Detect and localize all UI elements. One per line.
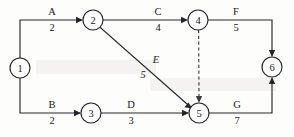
node-1: 1	[10, 58, 30, 78]
edge-label-c-name: C	[154, 6, 161, 17]
node-6-label: 6	[269, 62, 274, 73]
node-6: 6	[262, 57, 282, 77]
node-5: 5	[189, 103, 209, 123]
edge-label-f-value: 5	[233, 22, 238, 33]
edge-label-d-name: D	[127, 99, 135, 110]
edge-a-arrowhead	[76, 17, 83, 23]
edge-c-arrowhead	[181, 17, 188, 23]
edge-d	[101, 110, 189, 116]
edge-b	[20, 78, 81, 116]
edge-e	[101, 28, 193, 109]
edge-label-e-name: E	[152, 54, 160, 65]
edge-c	[103, 17, 188, 23]
edge-e-line	[101, 28, 191, 107]
edge-label-g-value: 7	[234, 115, 239, 126]
node-3-label: 3	[88, 108, 93, 119]
edge-label-a-name: A	[48, 6, 56, 17]
node-2: 2	[83, 10, 103, 30]
network-diagram: A 2 B 2 C 4 D 3 E 5 F 5 G 7	[0, 0, 294, 137]
node-4-label: 4	[195, 15, 201, 26]
edge-dummy	[196, 30, 202, 103]
edge-b-arrowhead	[74, 110, 81, 116]
network-diagram-canvas: A 2 B 2 C 4 D 3 E 5 F 5 G 7	[0, 0, 294, 137]
node-5-label: 5	[196, 108, 201, 119]
edge-f-line	[208, 20, 272, 55]
edge-label-g-name: G	[233, 99, 241, 110]
edge-dummy-arrowhead	[196, 96, 202, 103]
edge-label-e-value: 5	[140, 69, 145, 80]
node-1-label: 1	[17, 63, 22, 74]
node-2-label: 2	[90, 15, 95, 26]
edge-g	[209, 77, 275, 113]
edge-label-b-value: 2	[49, 115, 54, 126]
edge-g-arrowhead	[269, 77, 275, 84]
node-4: 4	[188, 10, 208, 30]
edge-d-arrowhead	[182, 110, 189, 116]
edge-label-e: E 5	[140, 54, 159, 80]
edge-f-arrowhead	[269, 50, 275, 57]
edge-label-c-value: 4	[155, 22, 161, 33]
edge-label-f-name: F	[233, 6, 239, 17]
edge-label-d-value: 3	[128, 115, 133, 126]
edge-f	[208, 20, 275, 57]
edge-label-a-value: 2	[49, 22, 54, 33]
node-3: 3	[81, 103, 101, 123]
edge-label-b-name: B	[48, 99, 55, 110]
